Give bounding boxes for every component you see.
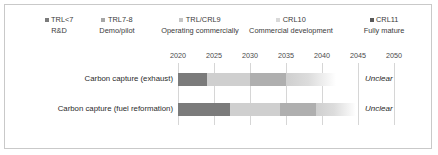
- chart-frame: TRL<7 R&D TRL7-8 Demo/pilot TRL/CRL9 Ope…: [4, 4, 432, 149]
- x-tick-2035: 2035: [278, 51, 294, 60]
- bar-segment-trl-crl9: [230, 103, 280, 116]
- legend-label-crl11: CRL11: [376, 15, 398, 24]
- chart-row: Carbon capture (fuel reformation) Unclea…: [5, 101, 433, 121]
- legend-label-trl-lt-7: TRL<7: [51, 15, 73, 24]
- legend-swatch-crl11: [370, 18, 374, 22]
- legend-item-crl11: CRL11 Fully mature: [345, 15, 423, 36]
- legend-top-crl11: CRL11: [345, 15, 423, 25]
- legend-label-crl10: CRL10: [283, 15, 306, 24]
- bar-segment-crl10: [250, 73, 286, 86]
- x-tick-2030: 2030: [242, 51, 258, 60]
- legend-swatch-crl10: [276, 18, 280, 22]
- row-label-carbon-capture-exhaust: Carbon capture (exhaust): [3, 74, 173, 83]
- legend-sublabel-crl10: Commercial development: [227, 25, 355, 36]
- row-label-carbon-capture-fuel-reformation: Carbon capture (fuel reformation): [3, 104, 173, 113]
- bar-carbon-capture-fuel-reformation[interactable]: [178, 103, 338, 116]
- bar-segment-trl-7-8: [178, 73, 207, 86]
- annotation-unclear-fuel-reformation: Unclear: [365, 104, 393, 113]
- x-tick-2025: 2025: [206, 51, 222, 60]
- x-tick-2050: 2050: [386, 51, 402, 60]
- legend-swatch-trl-lt-7: [45, 18, 49, 22]
- legend-label-trl-7-8: TRL7-8: [108, 15, 133, 24]
- bar-segment-crl10: [280, 103, 316, 116]
- plot-area: Carbon capture (exhaust) Unclear Carbon …: [5, 63, 433, 125]
- bar-segment-trl-7-8: [178, 103, 230, 116]
- legend-item-crl10: CRL10 Commercial development: [227, 15, 355, 36]
- x-axis: 2020 2025 2030 2035 2040 2045 2050: [5, 51, 431, 63]
- x-tick-2020: 2020: [170, 51, 186, 60]
- bar-segment-trl-crl9: [207, 73, 250, 86]
- bar-segment-crl10-fade: [286, 73, 336, 86]
- chart-legend: TRL<7 R&D TRL7-8 Demo/pilot TRL/CRL9 Ope…: [5, 15, 431, 49]
- legend-top-crl10: CRL10: [227, 15, 355, 25]
- bar-segment-crl10-fade: [316, 103, 356, 116]
- legend-sublabel-crl11: Fully mature: [345, 25, 423, 36]
- x-tick-2045: 2045: [350, 51, 366, 60]
- x-tick-2040: 2040: [314, 51, 330, 60]
- bar-carbon-capture-exhaust[interactable]: [178, 73, 328, 86]
- legend-swatch-trl-7-8: [101, 18, 105, 22]
- annotation-unclear-exhaust: Unclear: [365, 74, 393, 83]
- legend-label-trl-crl9: TRL/CRL9: [186, 15, 221, 24]
- chart-row: Carbon capture (exhaust) Unclear: [5, 71, 433, 91]
- legend-swatch-trl-crl9: [179, 18, 183, 22]
